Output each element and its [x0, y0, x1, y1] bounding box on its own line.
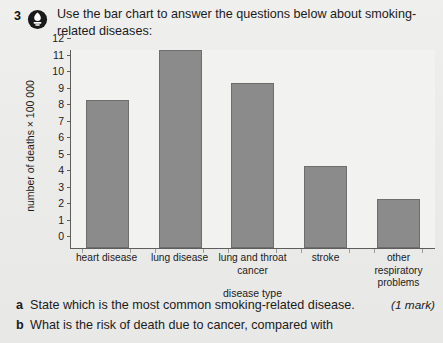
bar-slot — [362, 50, 435, 248]
sub-question: aState which is the most common smoking-… — [0, 296, 443, 316]
bar-chart: number of deaths × 100 000 0123456789101… — [0, 44, 443, 294]
y-axis-tick: 5 — [58, 148, 71, 160]
bar — [86, 100, 129, 249]
x-axis-category-label: lung disease — [143, 252, 216, 290]
sub-question: bWhat is the risk of death due to cancer… — [0, 316, 443, 336]
y-axis-tick: 0 — [58, 230, 71, 242]
page-root: 3 Use the bar chart to answer the questi… — [0, 0, 443, 343]
y-axis-tick: 2 — [58, 197, 71, 209]
x-axis-category-label: lung and throat cancer — [216, 252, 289, 290]
y-axis-tick: 9 — [58, 82, 71, 94]
y-axis-tick: 11 — [53, 49, 71, 61]
sub-question-list: aState which is the most common smoking-… — [0, 296, 443, 336]
sub-question-text: What is the risk of death due to cancer,… — [30, 318, 333, 332]
x-axis-category-label: stroke — [289, 252, 362, 290]
x-axis-category-label: heart disease — [70, 252, 143, 290]
y-axis-tick: 8 — [58, 98, 71, 110]
y-axis-label: number of deaths × 100 000 — [24, 71, 36, 221]
bar — [159, 50, 202, 248]
exam-badge-icon — [27, 9, 48, 30]
question-stem: Use the bar chart to answer the question… — [57, 6, 437, 39]
x-axis-category-labels: heart diseaselung diseaselung and throat… — [70, 252, 435, 290]
bar-series — [71, 50, 435, 248]
y-axis-tick: 4 — [58, 164, 71, 176]
sub-question-letter: b — [16, 316, 24, 335]
y-axis-tick: 6 — [58, 131, 71, 143]
bar-slot — [289, 50, 362, 248]
y-axis-tick: 3 — [58, 181, 71, 193]
bar-slot — [217, 50, 290, 248]
bar — [231, 83, 274, 248]
bar — [377, 199, 420, 249]
y-axis-tick: 10 — [52, 65, 71, 77]
sub-question-text: State which is the most common smoking-r… — [30, 298, 355, 312]
y-axis-tick: 7 — [58, 115, 71, 127]
x-axis-category-label: other respiratory problems — [362, 252, 435, 290]
bar-slot — [71, 50, 144, 248]
plot-area: 0123456789101112 — [70, 50, 435, 249]
bar — [304, 166, 347, 249]
bar-slot — [144, 50, 217, 248]
sub-question-letter: a — [16, 296, 23, 315]
y-axis-tick: 12 — [52, 32, 71, 44]
y-axis-tick: 1 — [58, 214, 71, 226]
question-number: 3 — [14, 9, 21, 23]
sub-question-marks: (1 mark) — [391, 296, 435, 315]
